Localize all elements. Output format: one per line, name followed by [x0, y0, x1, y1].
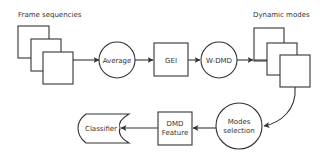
dynamic-modes-label: Dynamic modes [253, 11, 310, 19]
average-label: Average [103, 57, 132, 65]
average-node: Average [99, 42, 135, 78]
dmd-feature-label-line1: DMD [167, 120, 184, 128]
frame-sequences-stack [18, 26, 73, 84]
dmd-feature-label-line2: Feature [162, 129, 188, 137]
modes-selection-label-line1: Modes [228, 118, 251, 126]
edge-modes-selection [264, 87, 295, 126]
modes-selection-node: Modes selection [216, 103, 262, 149]
dynamic-modes-stack [254, 28, 310, 87]
pipeline-diagram: Frame sequencies Average GEI W-DMD Dynam… [0, 0, 323, 158]
classifier-label: Classifier [85, 125, 117, 133]
frame-3 [43, 52, 73, 84]
mode-3 [280, 55, 310, 87]
dmd-feature-node: DMD Feature [158, 112, 192, 145]
gei-label: GEI [165, 57, 177, 65]
wdmd-label: W-DMD [206, 57, 232, 65]
modes-selection-label-line2: selection [223, 127, 254, 135]
frame-sequences-label: Frame sequencies [18, 11, 82, 19]
wdmd-node: W-DMD [201, 42, 237, 78]
gei-node: GEI [154, 43, 188, 76]
